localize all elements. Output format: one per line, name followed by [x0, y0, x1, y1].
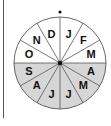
- segment-label-jun: J: [65, 88, 71, 100]
- segment-label-dec: D: [48, 28, 56, 40]
- segment-label-feb: F: [80, 34, 87, 46]
- segment-label-apr: A: [87, 65, 95, 77]
- segment-label-sep: S: [25, 65, 32, 77]
- segment-label-jan: J: [65, 28, 71, 40]
- segment-label-jul: J: [48, 88, 54, 100]
- center-dot: [58, 61, 62, 65]
- segment-label-oct: O: [25, 48, 34, 60]
- segment-label-aug: A: [33, 79, 41, 91]
- segment-label-mar: M: [86, 48, 95, 60]
- segment-label-nov: N: [33, 34, 41, 46]
- month-wheel-diagram: J F M A M J J A S O N D: [0, 0, 111, 126]
- top-marker-dot: [58, 10, 61, 13]
- segment-label-may: M: [79, 79, 88, 91]
